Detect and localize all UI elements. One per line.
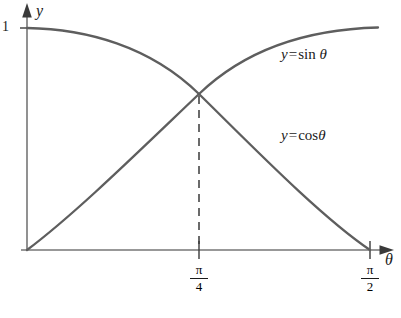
sine-label-argument: θ [319,46,326,62]
sine-label-lhs: y [281,46,288,62]
theta-axis-label: θ [385,252,393,268]
cosine-curve-label: y=cosθ [281,128,326,143]
sine-label-equals: = [288,46,298,62]
y-axis [22,3,32,250]
cosine-label-equals: = [288,127,298,143]
x-tick-label-pi-over-2: π 2 [361,263,379,293]
fraction-numerator: π [190,263,208,279]
fraction-numerator: π [361,263,379,279]
trig-graph-figure: y θ 1 π 4 π 2 y=sin θ y=cosθ [0,0,401,318]
fraction-denominator: 4 [190,279,208,294]
y-axis-label: y [36,3,43,19]
cosine-label-argument: θ [318,127,325,143]
sine-label-function: sin [298,46,316,62]
fraction-denominator: 2 [361,279,379,294]
x-axis [21,245,394,255]
cosine-label-lhs: y [281,127,288,143]
y-tick-label-one: 1 [2,20,9,34]
cosine-label-function: cos [298,127,318,143]
sine-curve-label: y=sin θ [281,47,327,62]
x-tick-label-pi-over-4: π 4 [190,263,208,293]
